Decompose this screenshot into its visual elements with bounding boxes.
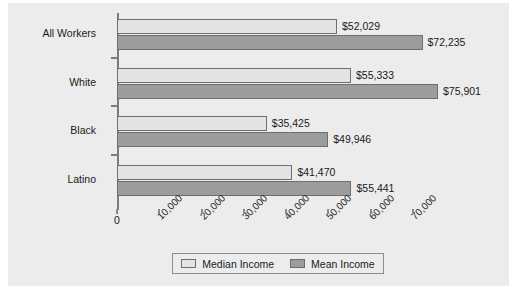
bar-group: $52,029$72,235	[117, 17, 449, 53]
bar-median	[117, 19, 337, 34]
bar-value-label: $49,946	[333, 132, 371, 147]
bar-mean	[117, 84, 438, 99]
legend-swatch	[290, 259, 305, 268]
x-axis-tick	[116, 209, 118, 214]
x-axis-tick-label: 0	[114, 214, 120, 226]
bar-group: $41,470$55,441	[117, 163, 449, 199]
bar-value-label: $75,901	[443, 84, 481, 99]
bar-value-label: $52,029	[342, 19, 380, 34]
x-axis-tick	[285, 209, 287, 214]
x-axis-tick	[201, 209, 203, 214]
category-axis-labels: All WorkersWhiteBlackLatino	[0, 14, 108, 208]
x-axis-tick	[412, 209, 414, 214]
chart-figure: All WorkersWhiteBlackLatino $52,029$72,2…	[0, 0, 517, 289]
category-label: Black	[70, 124, 96, 136]
bar-mean	[117, 132, 328, 147]
legend-item: Mean Income	[290, 258, 375, 270]
x-axis-tick	[158, 209, 160, 214]
x-axis-tick	[370, 209, 372, 214]
bar-group: $35,425$49,946	[117, 114, 449, 150]
bar-mean	[117, 181, 351, 196]
bar-value-label: $35,425	[272, 116, 310, 131]
x-axis-tick	[243, 209, 245, 214]
bar-median	[117, 116, 267, 131]
legend-item: Median Income	[181, 258, 274, 270]
bar-value-label: $72,235	[428, 35, 466, 50]
legend-label: Median Income	[202, 258, 274, 270]
y-axis-tick	[111, 154, 117, 156]
plot-area: $52,029$72,235$55,333$75,901$35,425$49,9…	[117, 14, 449, 208]
value-axis-labels: 010,00020,00030,00040,00050,00060,00070,…	[0, 214, 517, 254]
y-axis-tick	[111, 57, 117, 59]
x-axis-tick	[327, 209, 329, 214]
bar-mean	[117, 35, 423, 50]
category-label: White	[69, 76, 96, 88]
legend-label: Mean Income	[311, 258, 375, 270]
bar-median	[117, 68, 351, 83]
bar-value-label: $41,470	[297, 165, 335, 180]
category-label: All Workers	[43, 27, 96, 39]
y-axis-tick	[111, 105, 117, 107]
legend-swatch	[181, 259, 196, 268]
bar-median	[117, 165, 292, 180]
chart-legend: Median IncomeMean Income	[172, 253, 384, 274]
bar-group: $55,333$75,901	[117, 66, 449, 102]
category-label: Latino	[67, 173, 96, 185]
bar-value-label: $55,333	[356, 68, 394, 83]
